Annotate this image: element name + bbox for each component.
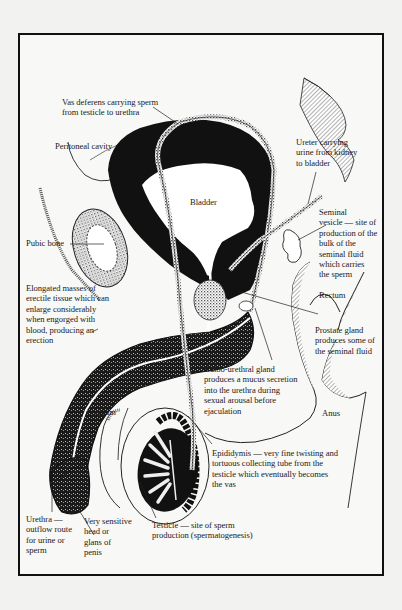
label-vas-deferens: Vas deferens carrying sperm from testicl…	[62, 97, 158, 118]
prostate-gland	[194, 280, 226, 320]
bulbo-urethral-gland	[239, 301, 253, 311]
glans	[52, 458, 90, 514]
label-peritoneal-cavity: Peritoneal cavity	[55, 141, 112, 151]
seminal-vesicle	[283, 230, 302, 263]
label-bladder: Bladder	[190, 197, 217, 207]
label-anus: Anus	[322, 408, 340, 418]
label-testicle: Testicle — site of sperm production (spe…	[152, 520, 253, 541]
label-bulbo-urethral-gland: Bulbo-urethral gland produces a mucus se…	[204, 364, 297, 416]
label-ureter: Ureter carrying urine from kidney to bla…	[296, 137, 357, 168]
label-prostate-gland: Prostate gland produces some of the semi…	[315, 325, 375, 356]
label-rectum: Rectum	[319, 290, 345, 300]
label-seminal-vesicle: Seminal vesicle — site of production of …	[319, 207, 377, 280]
label-erectile-tissue: Elongated masses of erectile tissue whic…	[26, 283, 109, 345]
scrotum-outline	[100, 412, 120, 508]
label-epididymis: Epididymis — very fine twisting and tort…	[212, 448, 338, 490]
label-urethra: Urethra — outflow route for urine or spe…	[26, 514, 72, 556]
label-glans: Very sensitive head or glans of penis	[84, 516, 132, 558]
label-pubic-bone: Pubic bone	[26, 238, 64, 248]
label-scrotum: Scrotum	[87, 407, 116, 417]
